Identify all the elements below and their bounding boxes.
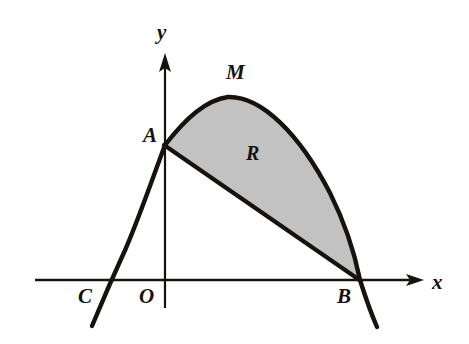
- geometry-diagram: [0, 0, 469, 344]
- region-label-R: R: [246, 143, 259, 163]
- point-label-C: C: [78, 286, 92, 307]
- y-axis-label: y: [157, 22, 166, 43]
- origin-label-O: O: [139, 286, 154, 307]
- x-axis-label: x: [432, 272, 443, 293]
- point-label-M: M: [226, 62, 245, 83]
- point-label-B: B: [337, 286, 351, 307]
- point-label-A: A: [143, 125, 157, 146]
- figure-root: A M B C O x y R: [0, 0, 469, 344]
- shaded-region-R: [165, 97, 360, 280]
